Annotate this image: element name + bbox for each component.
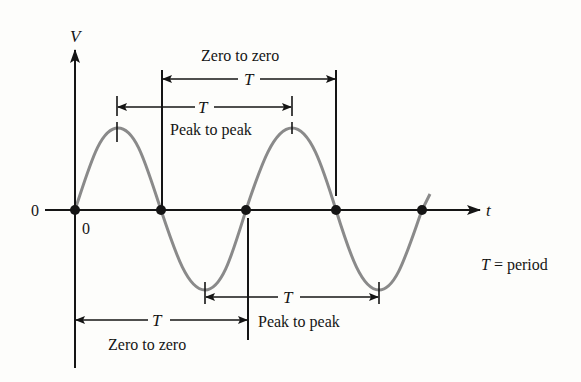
sine-period-diagram: V t 0 0 T Zero to zero T Peak to peak T … <box>0 0 581 382</box>
period-symbol: T <box>198 98 209 117</box>
y-origin-label: 0 <box>31 202 39 219</box>
zero-to-zero-label: Zero to zero <box>201 47 279 64</box>
period-symbol: T <box>244 70 255 89</box>
period-legend: T = period <box>481 256 548 274</box>
zero-crossing-dot <box>70 205 80 215</box>
peak-to-peak-label: Peak to peak <box>170 121 252 139</box>
period-legend-text: = period <box>490 256 548 274</box>
x-origin-label: 0 <box>82 220 90 237</box>
zero-crossing-dot <box>241 205 251 215</box>
period-symbol: T <box>283 288 294 307</box>
top-peak-to-peak-dimension: T Peak to peak <box>117 96 292 142</box>
period-symbol: T <box>152 311 163 330</box>
y-axis-label: V <box>70 27 83 46</box>
zero-crossing-dot <box>331 205 341 215</box>
zero-to-zero-label: Zero to zero <box>108 336 186 353</box>
bottom-peak-to-peak-dimension: T Peak to peak <box>205 282 379 331</box>
peak-to-peak-label: Peak to peak <box>258 313 340 331</box>
bottom-zero-to-zero-dimension: T Zero to zero <box>76 218 248 353</box>
zero-crossing-dot <box>417 205 427 215</box>
x-axis-label: t <box>486 201 492 220</box>
